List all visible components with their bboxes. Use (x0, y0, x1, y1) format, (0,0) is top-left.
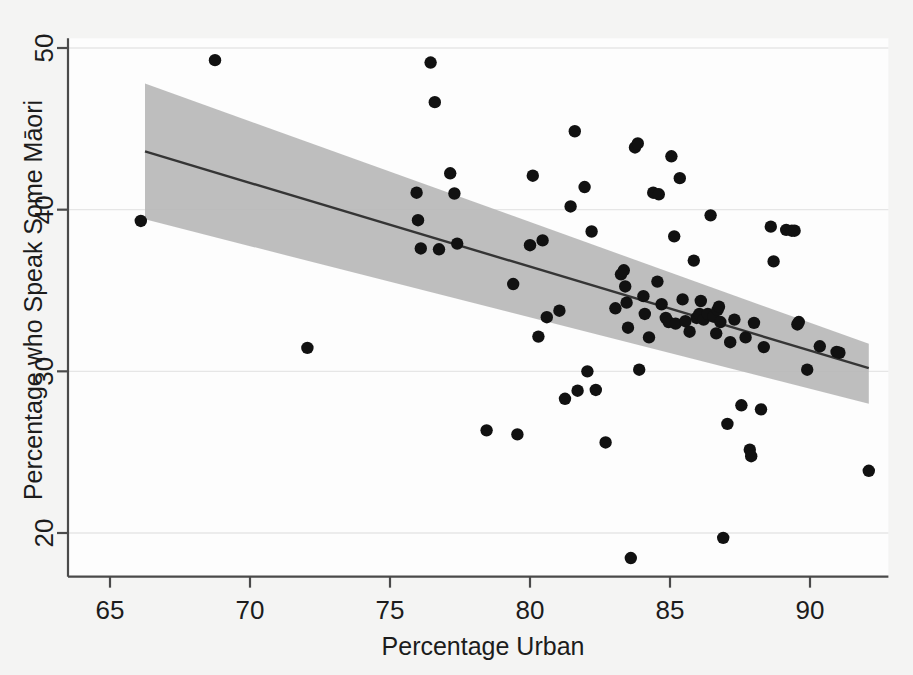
x-axis-title: Percentage Urban (382, 632, 585, 660)
data-point (651, 275, 663, 287)
data-point (429, 96, 441, 108)
data-point (564, 200, 576, 212)
data-point (713, 300, 725, 312)
data-point (748, 317, 760, 329)
data-point (676, 293, 688, 305)
data-point (833, 347, 845, 359)
data-point (524, 239, 536, 251)
data-point (578, 181, 590, 193)
data-point (655, 298, 667, 310)
data-point (444, 167, 456, 179)
x-axis-ticks: 657075808590 (96, 577, 825, 625)
data-point (599, 436, 611, 448)
data-point (590, 384, 602, 396)
data-point (424, 56, 436, 68)
y-tick-label-50: 50 (29, 34, 59, 63)
data-point (735, 399, 747, 411)
data-point (653, 188, 665, 200)
data-point (710, 327, 722, 339)
data-point (571, 385, 583, 397)
data-point (758, 341, 770, 353)
data-point (412, 214, 424, 226)
data-point (633, 364, 645, 376)
data-point (448, 187, 460, 199)
data-point (704, 209, 716, 221)
data-point (585, 225, 597, 237)
x-tick-label-80: 80 (516, 595, 545, 625)
data-point (569, 125, 581, 137)
data-point (683, 326, 695, 338)
data-point (625, 552, 637, 564)
data-point (415, 242, 427, 254)
data-point (639, 308, 651, 320)
data-point (788, 224, 800, 236)
data-point (619, 280, 631, 292)
y-axis-title: Percentage who Speak Some Māori (19, 100, 47, 500)
data-point (767, 255, 779, 267)
data-point (536, 234, 548, 246)
figure-container: 657075808590 20304050 Percentage Urban P… (0, 0, 913, 675)
x-tick-label-65: 65 (96, 595, 125, 625)
data-point (410, 186, 422, 198)
data-point (665, 150, 677, 162)
data-point (618, 264, 630, 276)
data-point (622, 321, 634, 333)
data-point (135, 215, 147, 227)
data-point (793, 316, 805, 328)
x-tick-label-85: 85 (656, 595, 685, 625)
data-point (643, 331, 655, 343)
data-point (668, 230, 680, 242)
data-point (632, 137, 644, 149)
data-point (724, 336, 736, 348)
data-point (553, 305, 565, 317)
data-point (765, 220, 777, 232)
data-point (620, 296, 632, 308)
data-point (637, 290, 649, 302)
x-tick-label-70: 70 (236, 595, 265, 625)
data-point (209, 54, 221, 66)
data-point (717, 532, 729, 544)
data-point (609, 302, 621, 314)
data-point (581, 365, 593, 377)
data-point (755, 403, 767, 415)
data-point (433, 243, 445, 255)
x-tick-label-90: 90 (796, 595, 825, 625)
data-point (301, 342, 313, 354)
data-point (714, 316, 726, 328)
data-point (507, 278, 519, 290)
data-point (814, 340, 826, 352)
data-point (674, 172, 686, 184)
data-point (745, 450, 757, 462)
data-point (532, 330, 544, 342)
data-point (559, 393, 571, 405)
data-point (695, 295, 707, 307)
data-point (863, 465, 875, 477)
data-point (728, 313, 740, 325)
data-point (451, 237, 463, 249)
scatter-plot: 657075808590 20304050 Percentage Urban P… (0, 0, 913, 675)
data-point (739, 331, 751, 343)
data-point (541, 311, 553, 323)
data-point (527, 170, 539, 182)
y-tick-label-20: 20 (29, 519, 59, 548)
x-tick-label-75: 75 (376, 595, 405, 625)
data-point (721, 418, 733, 430)
data-point (801, 364, 813, 376)
data-point (511, 428, 523, 440)
data-point (688, 254, 700, 266)
data-point (480, 424, 492, 436)
